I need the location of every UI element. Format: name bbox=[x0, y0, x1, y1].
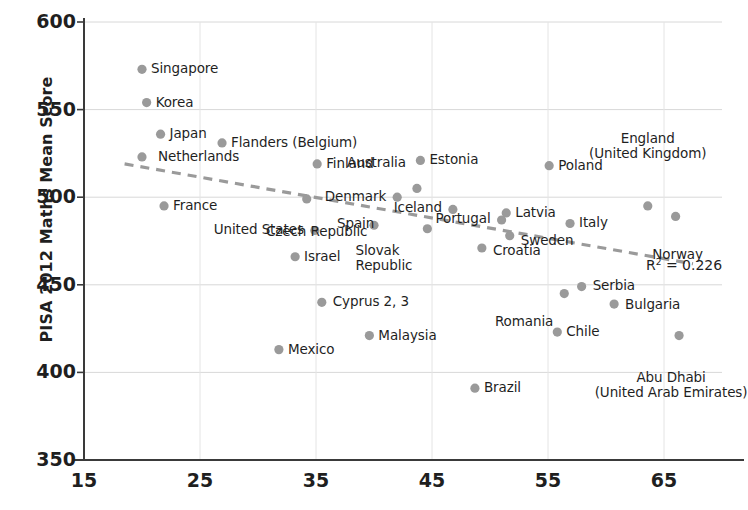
point-label: Australia bbox=[347, 156, 406, 171]
data-point bbox=[674, 331, 683, 340]
point-label: Netherlands bbox=[158, 149, 239, 164]
point-label: Malaysia bbox=[378, 328, 436, 343]
data-point bbox=[291, 252, 300, 261]
data-point bbox=[423, 224, 432, 233]
point-label: Brazil bbox=[484, 381, 521, 396]
data-point bbox=[565, 219, 574, 228]
r-squared-symbol: R bbox=[646, 257, 656, 273]
data-point bbox=[416, 156, 425, 165]
data-point bbox=[156, 130, 165, 139]
data-point bbox=[317, 298, 326, 307]
data-point bbox=[553, 328, 562, 337]
y-tick-label: 600 bbox=[24, 12, 76, 31]
data-point bbox=[217, 138, 226, 147]
point-label: Japan bbox=[170, 127, 207, 142]
data-point bbox=[137, 152, 146, 161]
point-label: Cyprus 2, 3 bbox=[333, 295, 409, 310]
data-point bbox=[643, 201, 652, 210]
point-label: Singapore bbox=[151, 62, 218, 77]
r-squared-value: = 0.226 bbox=[661, 257, 722, 273]
y-tick-label: 500 bbox=[24, 187, 76, 206]
x-tick-label: 25 bbox=[170, 471, 230, 490]
x-tick-label: 65 bbox=[634, 471, 694, 490]
data-point bbox=[497, 215, 506, 224]
data-point bbox=[302, 194, 311, 203]
x-tick-label: 15 bbox=[54, 471, 114, 490]
scatter-chart: PISA 2012 Maths Mean Score 3504004505005… bbox=[0, 0, 748, 510]
point-label: Portugal bbox=[435, 211, 490, 226]
point-label: England (United Kingdom) bbox=[589, 131, 706, 161]
point-label: Serbia bbox=[593, 278, 635, 293]
point-label: Estonia bbox=[429, 153, 478, 168]
data-point bbox=[560, 289, 569, 298]
point-label: Abu Dhabi (United Arab Emirates) bbox=[595, 369, 748, 399]
data-point bbox=[365, 331, 374, 340]
data-point bbox=[137, 65, 146, 74]
data-point bbox=[412, 184, 421, 193]
y-tick-label: 350 bbox=[24, 450, 76, 469]
data-point bbox=[477, 243, 486, 252]
point-label: Latvia bbox=[515, 205, 556, 220]
point-label: Romania bbox=[495, 314, 553, 329]
data-point bbox=[159, 201, 168, 210]
r-squared-text: R2 = 0.226 bbox=[646, 257, 722, 274]
point-label: Israel bbox=[304, 249, 340, 264]
data-point bbox=[545, 161, 554, 170]
point-label: France bbox=[173, 198, 217, 213]
data-point bbox=[274, 345, 283, 354]
point-label: Bulgaria bbox=[625, 298, 680, 313]
data-point bbox=[671, 212, 680, 221]
point-label: Croatia bbox=[493, 243, 541, 258]
data-point bbox=[142, 98, 151, 107]
x-tick-label: 45 bbox=[402, 471, 462, 490]
data-point bbox=[610, 299, 619, 308]
x-tick-label: 55 bbox=[518, 471, 578, 490]
y-tick-label: 450 bbox=[24, 275, 76, 294]
data-point bbox=[470, 384, 479, 393]
y-tick-label: 550 bbox=[24, 100, 76, 119]
point-label: Mexico bbox=[288, 342, 335, 357]
data-point bbox=[577, 282, 586, 291]
point-label: Italy bbox=[579, 216, 608, 231]
point-label: Flanders (Belgium) bbox=[231, 135, 357, 150]
data-point bbox=[313, 159, 322, 168]
point-label: Korea bbox=[156, 95, 194, 110]
point-label: Chile bbox=[566, 325, 599, 340]
data-point bbox=[505, 231, 514, 240]
point-label: United States bbox=[214, 223, 304, 238]
x-tick-label: 35 bbox=[286, 471, 346, 490]
point-label: Denmark bbox=[325, 190, 386, 205]
point-label: Slovak Republic bbox=[355, 243, 412, 273]
y-tick-label: 400 bbox=[24, 362, 76, 381]
point-label: Spain bbox=[337, 217, 374, 232]
